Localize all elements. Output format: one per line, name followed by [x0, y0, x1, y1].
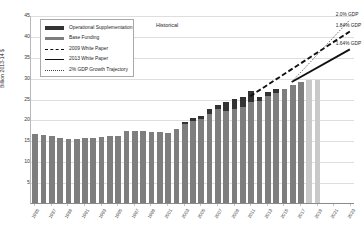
- x-tick-label: 2011: [244, 208, 257, 224]
- bar-segment-base-funding: [74, 139, 80, 203]
- bar: [223, 15, 229, 203]
- legend-line-sample: [45, 59, 64, 60]
- bar: [240, 15, 246, 203]
- bar-segment-operational-supplementation: [198, 116, 204, 119]
- legend-label: 2009 White Paper: [69, 47, 108, 52]
- x-tick-label: 2007: [210, 208, 223, 224]
- x-tick-label: 1987: [44, 208, 57, 224]
- x-tick-mark: [317, 204, 318, 206]
- legend-swatch: [45, 26, 64, 30]
- x-tick-label: 2017: [294, 208, 307, 224]
- x-tick-label: 2001: [161, 208, 174, 224]
- bar-segment-base-funding: [290, 85, 296, 203]
- bar-segment-base-funding: [66, 139, 72, 203]
- x-tick-label: 1989: [61, 208, 74, 224]
- bar-segment-base-funding: [273, 93, 279, 203]
- x-tick-label: 2005: [194, 208, 207, 224]
- y-tick-label: 45: [6, 13, 30, 18]
- x-tick-label: 1991: [78, 208, 91, 224]
- x-tick-label: 2021: [327, 208, 340, 224]
- bar-segment-base-funding: [190, 121, 196, 203]
- bar-segment-base-funding: [99, 137, 105, 203]
- projection-end-label: 1.64% GDP: [336, 41, 361, 46]
- bar: [32, 15, 38, 203]
- bar-segment-base-funding: [174, 129, 180, 203]
- bar-segment-base-funding: [132, 131, 138, 203]
- bar: [306, 15, 312, 203]
- x-tick-label: 2015: [277, 208, 290, 224]
- x-tick-label: 1993: [94, 208, 107, 224]
- bar-segment-base-funding: [107, 136, 113, 203]
- x-tick-mark: [283, 204, 284, 206]
- projection-end-label: 1.84% GDP: [336, 23, 361, 28]
- bar-segment-operational-supplementation: [265, 92, 271, 96]
- x-tick-label: 1997: [127, 208, 140, 224]
- x-tick-mark: [250, 204, 251, 206]
- bar-segment-operational-supplementation: [248, 91, 254, 101]
- y-axis-title: Billion 2013-14 $: [0, 49, 5, 88]
- legend-item: Operational Supplementation: [44, 23, 130, 34]
- bar: [140, 15, 146, 203]
- x-tick-label: 2003: [177, 208, 190, 224]
- bar: [315, 15, 321, 203]
- legend-item: Base Funding: [44, 34, 130, 45]
- bar-segment-operational-supplementation: [215, 105, 221, 110]
- bar-segment-base-funding: [157, 132, 163, 203]
- chart-legend: Operational SupplementationBase Funding2…: [40, 19, 134, 77]
- bar-segment-base-funding: [149, 132, 155, 203]
- bar-segment-base-funding: [232, 109, 238, 203]
- y-tick-label: 35: [6, 55, 30, 60]
- bar-segment-base-funding: [240, 107, 246, 203]
- bar-segment-base-funding: [41, 135, 47, 204]
- bar-segment-base-funding: [315, 80, 321, 203]
- x-tick-label: 2013: [260, 208, 273, 224]
- bar-segment-base-funding: [248, 102, 254, 203]
- bar: [174, 15, 180, 203]
- x-tick-mark: [267, 204, 268, 206]
- x-tick-mark: [300, 204, 301, 206]
- y-tick-label: 30: [6, 76, 30, 81]
- legend-key-swatch-dark: [44, 24, 65, 33]
- x-tick-mark: [150, 204, 151, 206]
- x-tick-label: 1985: [28, 208, 41, 224]
- bar: [257, 15, 263, 203]
- x-tick-mark: [184, 204, 185, 206]
- x-tick-mark: [101, 204, 102, 206]
- bar-segment-base-funding: [32, 134, 38, 203]
- x-tick-mark: [117, 204, 118, 206]
- bar: [290, 15, 296, 203]
- bar-segment-base-funding: [207, 114, 213, 203]
- y-tick-label: 15: [6, 138, 30, 143]
- x-tick-mark: [84, 204, 85, 206]
- x-tick-mark: [134, 204, 135, 206]
- bar: [273, 15, 279, 203]
- legend-item: 2009 White Paper: [44, 44, 130, 55]
- bar: [248, 15, 254, 203]
- x-tick-mark: [67, 204, 68, 206]
- bar-segment-operational-supplementation: [223, 102, 229, 111]
- legend-label: Base Funding: [69, 36, 99, 41]
- bar-segment-base-funding: [165, 133, 171, 203]
- bar-segment-base-funding: [49, 136, 55, 203]
- bar-segment-operational-supplementation: [190, 118, 196, 121]
- bar-segment-base-funding: [124, 131, 130, 203]
- legend-label: Operational Supplementation: [69, 26, 132, 31]
- legend-item: 2013 White Paper: [44, 55, 130, 66]
- y-tick-label: 10: [6, 159, 30, 164]
- y-tick-label: 20: [6, 117, 30, 122]
- bar-segment-base-funding: [265, 96, 271, 203]
- bar-segment-operational-supplementation: [232, 99, 238, 109]
- bar-segment-operational-supplementation: [207, 109, 213, 113]
- x-tick-label: 1995: [111, 208, 124, 224]
- bar-segment-base-funding: [223, 111, 229, 203]
- bar-segment-base-funding: [115, 136, 121, 203]
- bar: [165, 15, 171, 203]
- bar-segment-base-funding: [282, 89, 288, 203]
- x-tick-label: 2009: [227, 208, 240, 224]
- legend-key-swatch-gray: [44, 34, 65, 43]
- bar: [198, 15, 204, 203]
- defence-funding-chart: Billion 2013-14 $ 51015202530354045 1985…: [0, 0, 364, 245]
- bar: [207, 15, 213, 203]
- legend-key-line-dotted: [44, 66, 65, 75]
- bar-segment-base-funding: [298, 82, 304, 203]
